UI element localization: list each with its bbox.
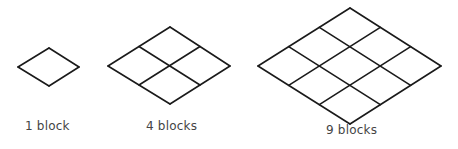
label-4-blocks: 4 blocks — [146, 119, 197, 133]
label-9-blocks: 9 blocks — [326, 123, 377, 137]
rhombus-grid-2x2 — [108, 27, 230, 104]
label-1-block: 1 block — [25, 119, 70, 133]
rhombus-grid-1x1 — [18, 48, 79, 86]
rhombus-grid-3x3 — [258, 8, 441, 124]
